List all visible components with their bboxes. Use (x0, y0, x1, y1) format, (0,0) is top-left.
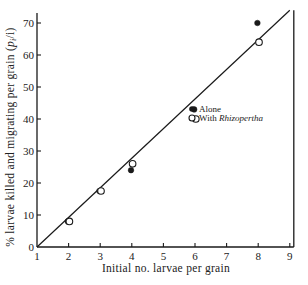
x-tick-label: 3 (97, 250, 103, 262)
x-tick-label: 5 (161, 250, 167, 262)
y-tick-label: 50 (23, 81, 35, 93)
x-tick-label: 2 (66, 250, 72, 262)
x-tick-label: 6 (192, 250, 198, 262)
legend-alone-marker (189, 106, 195, 112)
y-axis-title: % larvae killed and migrating per grain … (4, 27, 18, 246)
x-tick-label: 1 (34, 250, 40, 262)
x-axis-title: Initial no. larvae per grain (102, 262, 230, 275)
fit-line (37, 10, 290, 247)
x-tick-label: 4 (129, 250, 135, 262)
legend-with-label: With Rhizopertha (199, 113, 263, 123)
y-tick-label: 10 (23, 209, 35, 221)
y-tick-label: 20 (23, 177, 35, 189)
y-tick-label: 60 (23, 49, 35, 61)
chart: 123456789010203040506070 Alone With Rhiz… (0, 0, 308, 285)
point-alone (255, 20, 261, 26)
point-with-rhizopertha (98, 188, 105, 195)
regression-line (37, 10, 290, 247)
y-tick-label: 40 (23, 113, 35, 125)
point-alone (128, 167, 134, 173)
legend-with-marker (189, 115, 195, 121)
x-tick-label: 8 (255, 250, 261, 262)
point-with-rhizopertha (256, 39, 263, 46)
y-tick-label: 30 (23, 145, 35, 157)
point-with-rhizopertha (66, 218, 73, 225)
point-with-rhizopertha (129, 161, 136, 168)
x-tick-label: 9 (287, 250, 293, 262)
legend: Alone With Rhizopertha (189, 104, 263, 123)
x-tick-label: 7 (224, 250, 230, 262)
y-tick-label: 70 (23, 17, 35, 29)
y-tick-label: 0 (29, 241, 35, 253)
ticks: 123456789010203040506070 (23, 17, 293, 262)
